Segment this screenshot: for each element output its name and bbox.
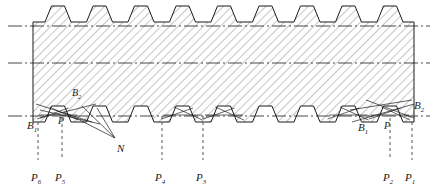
pitch-label-p1: P1	[405, 172, 415, 186]
pitch-label-p5: P5	[55, 172, 65, 186]
label-b1-left: B1	[27, 120, 37, 134]
pitch-label-p3: P3	[196, 172, 206, 186]
label-n: N	[117, 143, 124, 154]
label-p-left: P	[58, 116, 64, 126]
label-b2-left: B2	[72, 88, 81, 100]
pitch-label-p2: P2	[383, 172, 393, 186]
label-p-right: P	[384, 121, 390, 131]
pitch-label-p6: P6	[31, 172, 41, 186]
label-b2-right: B2	[414, 100, 424, 114]
hatched-body	[33, 6, 414, 122]
figure-canvas: B1 B2 P N B1 P B2 P6P5P4P3P2P1	[0, 0, 438, 193]
technical-drawing	[0, 0, 438, 193]
label-b1-right: B1	[358, 122, 368, 136]
pitch-label-p4: P4	[155, 172, 165, 186]
